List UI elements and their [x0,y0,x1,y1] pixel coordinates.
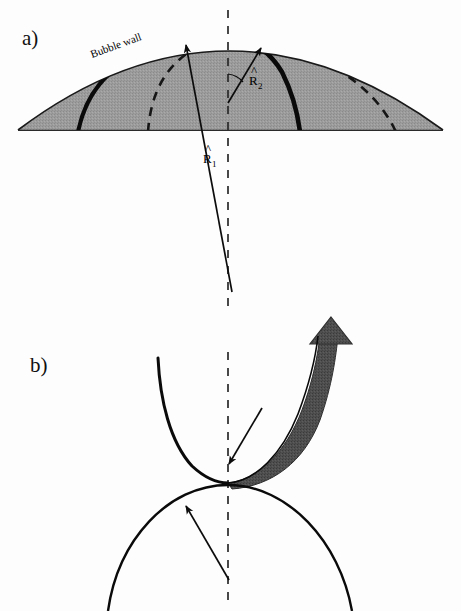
vector-r1-label-group: ^ R 1 [203,141,217,169]
vector-r1-subscript: 1 [212,159,217,169]
vector-r2-subscript: 2 [258,81,263,91]
jet-wall-left [158,358,228,483]
vector-r1-label: R [203,151,212,166]
panel-label-b: b) [30,353,48,377]
panel-label-a: a) [22,26,38,50]
jet-arrow-head [310,317,352,344]
figure-container: Bubble wall ^ R 1 ^ R 2 a) [0,0,461,611]
bubble-wall-label: Bubble wall [89,30,143,60]
vector-r2-label: R [249,73,258,88]
panel-a: Bubble wall ^ R 1 ^ R 2 a) [18,10,443,310]
flow-arrow-lower [186,506,229,580]
flow-arrow-upper [229,408,262,464]
bubble-jet-diagram: Bubble wall ^ R 1 ^ R 2 a) [0,0,461,611]
jet-band-fill [228,336,338,489]
panel-b: b) [30,317,352,611]
lower-bubble-dome [108,485,352,611]
